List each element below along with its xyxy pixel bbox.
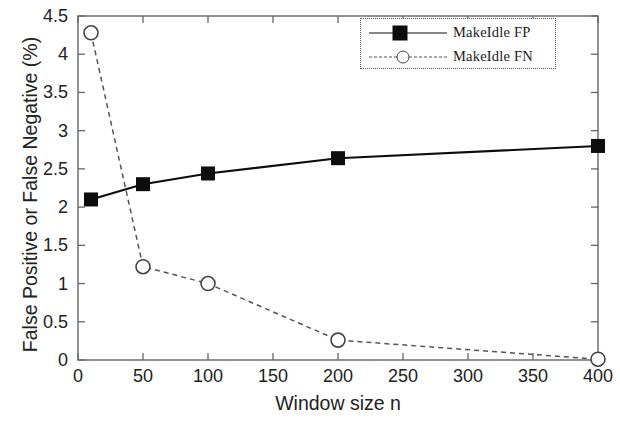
- x-tick-label: 400: [583, 366, 613, 387]
- legend-item-makeidle-fp: MakeIdle FP: [361, 20, 557, 45]
- x-tick-label: 200: [323, 366, 353, 387]
- legend-line-solid-icon: [369, 32, 447, 33]
- data-point-fn: [591, 352, 605, 366]
- open-circle-marker-icon: [397, 50, 410, 63]
- chart-figure: 00.511.522.533.544.5 0501001502002503003…: [0, 0, 620, 425]
- data-point-fp: [201, 166, 215, 180]
- data-point-fp: [136, 177, 150, 191]
- x-tick-label: 50: [133, 366, 153, 387]
- x-tick-label: 150: [258, 366, 288, 387]
- x-tick-label: 300: [453, 366, 483, 387]
- series-markers-makeidle-fn: [84, 26, 605, 366]
- x-tick-label: 0: [73, 366, 83, 387]
- data-point-fn: [136, 260, 150, 274]
- chart-legend: MakeIdle FP MakeIdle FN: [360, 18, 556, 69]
- data-point-fn: [84, 26, 98, 40]
- legend-swatch-fp: [361, 22, 453, 44]
- legend-item-makeidle-fn: MakeIdle FN: [361, 44, 557, 69]
- legend-swatch-fn: [361, 46, 453, 68]
- data-point-fp: [84, 192, 98, 206]
- y-axis-title: False Positive or False Negative (%): [19, 15, 42, 375]
- x-tick-label: 100: [193, 366, 223, 387]
- x-axis-title: Window size n: [78, 392, 598, 415]
- filled-square-marker-icon: [393, 25, 408, 40]
- data-point-fp: [331, 151, 345, 165]
- data-point-fn: [201, 277, 215, 291]
- data-point-fp: [591, 139, 605, 153]
- legend-label-fp: MakeIdle FP: [453, 24, 531, 41]
- data-point-fn: [331, 333, 345, 347]
- series-line-makeidle-fn: [91, 33, 598, 359]
- x-tick-label: 250: [388, 366, 418, 387]
- x-axis-tick-labels: 050100150200250300350400: [0, 366, 620, 392]
- legend-label-fn: MakeIdle FN: [453, 48, 533, 65]
- x-tick-label: 350: [518, 366, 548, 387]
